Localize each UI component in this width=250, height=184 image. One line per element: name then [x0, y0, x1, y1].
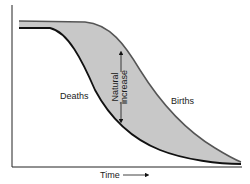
- diagram-canvas: Deaths Births Natural increase Time: [0, 0, 250, 184]
- natural-increase-label-line2: increase: [119, 70, 129, 104]
- deaths-label: Deaths: [60, 91, 89, 101]
- x-axis-label: Time: [100, 170, 120, 180]
- births-label: Births: [171, 96, 195, 106]
